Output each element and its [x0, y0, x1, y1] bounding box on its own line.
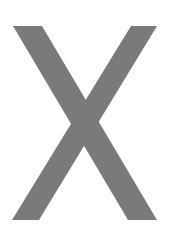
letter-x-icon	[0, 0, 175, 236]
glyph-canvas: X	[0, 0, 175, 236]
